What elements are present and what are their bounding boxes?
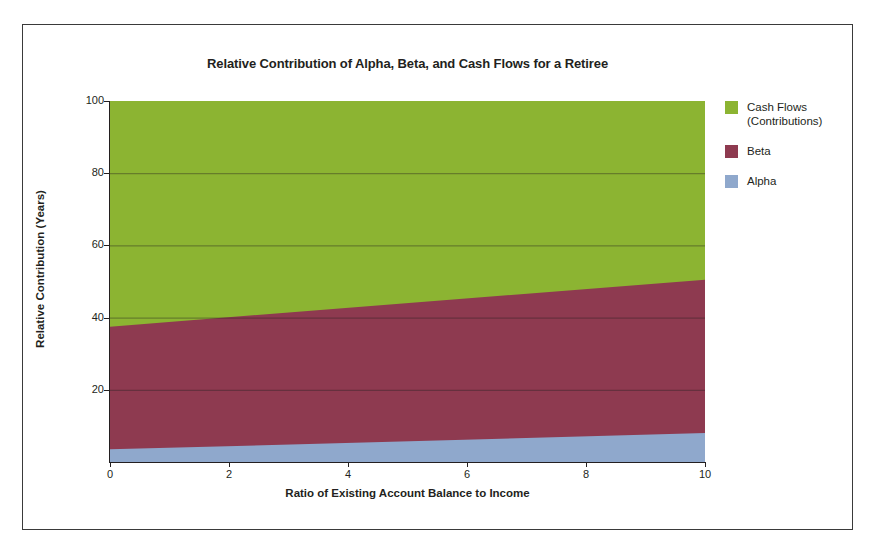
- legend-item[interactable]: Alpha: [725, 174, 845, 188]
- x-tick-label-0: 0: [95, 468, 125, 480]
- y-axis-title: Relative Contribution (Years): [34, 169, 46, 369]
- area-series-group: [110, 101, 705, 462]
- y-tick-mark-40: [104, 318, 109, 319]
- y-axis-line: [109, 101, 110, 463]
- x-tick-label-4: 4: [333, 468, 363, 480]
- y-tick-label-40: 40: [64, 311, 104, 323]
- x-tick-mark-4: [348, 463, 349, 467]
- y-tick-label-100: 100: [64, 94, 104, 106]
- x-axis-line: [109, 462, 706, 463]
- legend-item-label: Cash Flows (Contributions): [747, 100, 822, 128]
- y-tick-label-60: 60: [64, 238, 104, 250]
- stacked-area-plot: [110, 101, 705, 462]
- x-tick-label-10: 10: [690, 468, 720, 480]
- y-tick-label-80: 80: [64, 166, 104, 178]
- legend-item-label: Alpha: [747, 174, 776, 188]
- x-axis-title: Ratio of Existing Account Balance to Inc…: [110, 487, 705, 499]
- legend-swatch-icon: [725, 175, 738, 188]
- legend-swatch-icon: [725, 145, 738, 158]
- x-tick-label-8: 8: [571, 468, 601, 480]
- legend-item-label: Beta: [747, 144, 771, 158]
- y-tick-mark-60: [104, 245, 109, 246]
- x-tick-mark-6: [467, 463, 468, 467]
- chart-legend: Cash Flows (Contributions)BetaAlpha: [725, 100, 845, 204]
- legend-item[interactable]: Beta: [725, 144, 845, 158]
- y-tick-mark-20: [104, 390, 109, 391]
- chart-title: Relative Contribution of Alpha, Beta, an…: [110, 56, 705, 71]
- legend-item[interactable]: Cash Flows (Contributions): [725, 100, 845, 128]
- x-tick-mark-0: [110, 463, 111, 467]
- y-tick-mark-100: [104, 101, 109, 102]
- y-tick-mark-80: [104, 173, 109, 174]
- x-tick-label-6: 6: [452, 468, 482, 480]
- x-tick-mark-8: [586, 463, 587, 467]
- plot-area: [110, 101, 705, 462]
- x-tick-label-2: 2: [214, 468, 244, 480]
- figure-container: Relative Contribution of Alpha, Beta, an…: [0, 0, 873, 552]
- x-tick-mark-2: [229, 463, 230, 467]
- y-tick-label-20: 20: [64, 383, 104, 395]
- x-tick-mark-10: [705, 463, 706, 467]
- legend-swatch-icon: [725, 101, 738, 114]
